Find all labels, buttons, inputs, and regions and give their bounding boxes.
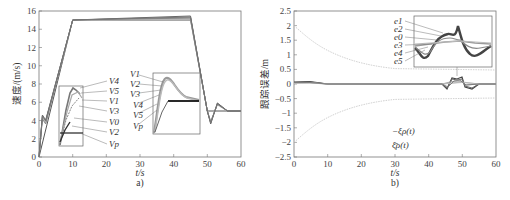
y-tick-label: 0 xyxy=(287,79,292,89)
y-tick-label: 2 xyxy=(287,21,292,31)
inset-label: V1 xyxy=(130,69,140,79)
y-tick-label: −1.5 xyxy=(275,123,292,133)
chart-a: 0 2 4 6 8 10 12 14 16 0 10 20 30 40 50 6… xyxy=(11,6,246,189)
y-tick-label: −2 xyxy=(281,137,291,147)
y-tick-label: 0.5 xyxy=(280,64,292,74)
inset-label: V3 xyxy=(109,106,119,116)
y-tick-label: 14 xyxy=(27,24,37,34)
inset-label: V5 xyxy=(109,86,119,96)
inset-label: V3 xyxy=(130,89,140,99)
x-tick-label: 50 xyxy=(203,159,213,169)
x-tick-label: 40 xyxy=(169,159,179,169)
y-tick-label: 2 xyxy=(32,134,37,144)
legend-lower-bound: −ξρ(t) xyxy=(392,126,415,136)
x-tick-label: 10 xyxy=(68,159,78,169)
y-tick-label: 16 xyxy=(27,6,37,16)
inset-label: V5 xyxy=(133,110,143,120)
y-tick-label: 1 xyxy=(287,50,292,60)
y-tick-label: 4 xyxy=(32,116,37,126)
y-tick-label: 10 xyxy=(27,61,37,71)
y-axis-label-a: 速度/(m/s) xyxy=(11,63,23,106)
inset-label: V1 xyxy=(109,96,119,106)
y-axis-a: 0 2 4 6 8 10 12 14 16 xyxy=(27,6,42,162)
figure: 0 2 4 6 8 10 12 14 16 0 10 20 30 40 50 6… xyxy=(0,0,510,200)
chart-b: 2.5 2 1.5 1 0.5 0 −0.5 −1 −1.5 −2 −2.5 0… xyxy=(259,6,501,189)
inset-label: Vp xyxy=(109,139,119,149)
y-tick-label: −0.5 xyxy=(275,94,292,104)
y-tick-label: −2.5 xyxy=(275,152,292,162)
x-tick-label: 20 xyxy=(102,159,112,169)
series-group-b xyxy=(294,77,496,89)
inset-label: V4 xyxy=(109,76,119,86)
x-tick-label: 60 xyxy=(492,159,502,169)
inset-label: V4 xyxy=(133,100,143,110)
inset-label: V0 xyxy=(109,117,119,127)
x-axis-a: 0 10 20 30 40 50 60 xyxy=(37,154,246,169)
y-tick-label: −1 xyxy=(281,108,291,118)
x-tick-label: 20 xyxy=(357,159,367,169)
x-axis-label-b: t/s xyxy=(391,168,400,178)
inset-b: e1 e2 e0 e3 e4 e5 xyxy=(394,16,492,76)
x-tick-label: 0 xyxy=(37,159,42,169)
y-tick-label: 12 xyxy=(27,43,36,53)
caption-a: a) xyxy=(136,178,143,189)
inset-1-a: V4 V5 V1 V3 V0 V2 Vp xyxy=(59,76,119,149)
caption-b: b) xyxy=(391,178,399,189)
x-axis-label-a: t/s xyxy=(136,168,145,178)
x-tick-label: 0 xyxy=(292,159,297,169)
y-tick-label: 2.5 xyxy=(280,6,292,16)
inset-label: V2 xyxy=(109,127,119,137)
x-axis-b: 0 10 20 30 40 50 60 xyxy=(292,154,501,169)
legend-upper-bound: ξ̄ρ(t) xyxy=(392,140,409,150)
y-tick-label: 0 xyxy=(32,152,37,162)
y-tick-label: 6 xyxy=(32,97,37,107)
inset-2-a: V1 V2 V3 V4 V5 Vp xyxy=(130,69,200,134)
x-tick-label: 50 xyxy=(458,159,468,169)
y-axis-label-b: 跟踪误差/m xyxy=(259,58,270,109)
inset-label: Vp xyxy=(133,121,143,131)
x-tick-label: 10 xyxy=(323,159,333,169)
y-tick-label: 1.5 xyxy=(280,35,292,45)
y-tick-label: 8 xyxy=(32,79,37,89)
inset-label: e5 xyxy=(394,56,403,66)
x-tick-label: 40 xyxy=(424,159,434,169)
x-tick-label: 60 xyxy=(237,159,247,169)
inset-label: V2 xyxy=(130,79,140,89)
